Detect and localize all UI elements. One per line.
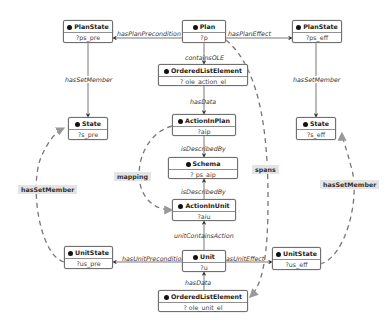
class-dot-icon	[164, 69, 169, 74]
edge-label-contains-ole: containsOLE	[185, 54, 224, 61]
node-id: ?ps_pre	[64, 33, 112, 43]
node-id: ?s_pre	[69, 130, 107, 140]
node-unit[interactable]: Unit ?u	[182, 250, 226, 272]
node-title: PlanState	[303, 23, 338, 30]
dashed-label-mapping: mapping	[114, 172, 151, 181]
node-action-in-plan[interactable]: ActionInPlan ?aip	[172, 114, 236, 136]
dashed-label-has-set-member-right: hasSetMember	[320, 180, 379, 189]
class-dot-icon	[164, 295, 169, 300]
edge-label-has-plan-effect: hasPlanEffect	[228, 30, 271, 37]
node-state-pre[interactable]: State ?s_pre	[68, 117, 108, 140]
node-title: OrderedListElement	[171, 67, 242, 74]
dashed-label-spans: spans	[252, 165, 279, 174]
node-title: Unit	[200, 253, 215, 260]
node-id: ?us_eff	[273, 260, 320, 270]
node-title: PlanState	[74, 23, 109, 30]
node-plan[interactable]: Plan ?p	[182, 20, 226, 43]
node-id: ?aiu	[173, 212, 235, 222]
edge-label-has-set-member-left: hasSetMember	[65, 76, 112, 83]
node-id: ?aip	[173, 127, 235, 137]
class-dot-icon	[67, 25, 72, 30]
node-id: ?p	[183, 33, 225, 43]
edge-label-unit-contains-action: unitContainsAction	[174, 232, 234, 239]
node-unitstate-eff[interactable]: UnitState ?us_eff	[272, 247, 321, 270]
node-title: State	[310, 120, 329, 127]
node-planstate-pre[interactable]: PlanState ?ps_pre	[63, 20, 113, 43]
class-dot-icon	[276, 252, 281, 257]
node-title: UnitState	[283, 250, 317, 257]
class-dot-icon	[68, 251, 73, 256]
node-title: ActionInUnit	[185, 202, 229, 209]
edge-label-has-data-bottom: hasData	[185, 279, 211, 286]
edge-label-has-set-member-right: hasSetMember	[293, 76, 340, 83]
edge-label-is-described-by-top: isDescribedBy	[181, 145, 226, 152]
node-id: ?ps_eff	[293, 33, 341, 43]
node-action-in-unit[interactable]: ActionInUnit ?aiu	[172, 199, 236, 221]
node-title: State	[82, 120, 101, 127]
edge-label-has-plan-precondition: hasPlanPrecondition	[117, 30, 181, 37]
node-title: Schema	[193, 160, 221, 167]
node-id: ?us_pre	[65, 259, 112, 269]
node-planstate-eff[interactable]: PlanState ?ps_eff	[292, 20, 342, 43]
node-state-eff[interactable]: State ?s_eff	[296, 117, 336, 140]
ontology-diagram: hasPlanPrecondition hasPlanEffect contai…	[0, 0, 390, 332]
class-dot-icon	[193, 25, 198, 30]
edge-label-has-unit-effect: hasUnitEffect	[222, 255, 264, 262]
node-id: ? ole_action_el	[159, 77, 247, 87]
class-dot-icon	[193, 255, 198, 260]
node-id: ?u	[183, 263, 225, 273]
edge-label-is-described-by-bottom: isDescribedBy	[181, 188, 226, 195]
node-id: ? ole_unit_el	[159, 303, 247, 313]
edge-label-has-unit-precondition: hasUnitPrecondition	[122, 255, 185, 262]
class-dot-icon	[186, 162, 191, 167]
node-ole-unit[interactable]: OrderedListElement ? ole_unit_el	[158, 290, 248, 312]
class-dot-icon	[75, 122, 80, 127]
node-id: ? ps_aip	[169, 170, 237, 180]
node-title: UnitState	[75, 249, 109, 256]
node-title: OrderedListElement	[171, 293, 242, 300]
node-ole-action[interactable]: OrderedListElement ? ole_action_el	[158, 64, 248, 86]
node-schema[interactable]: Schema ? ps_aip	[168, 157, 238, 179]
node-title: ActionInPlan	[185, 117, 230, 124]
node-id: ?s_eff	[297, 130, 335, 140]
dashed-label-has-set-member-left: hasSetMember	[18, 185, 77, 194]
class-dot-icon	[296, 25, 301, 30]
class-dot-icon	[178, 204, 183, 209]
class-dot-icon	[178, 119, 183, 124]
class-dot-icon	[303, 122, 308, 127]
node-unitstate-pre[interactable]: UnitState ?us_pre	[64, 246, 113, 269]
edge-label-has-data-top: hasData	[190, 98, 216, 105]
node-title: Plan	[200, 23, 216, 30]
